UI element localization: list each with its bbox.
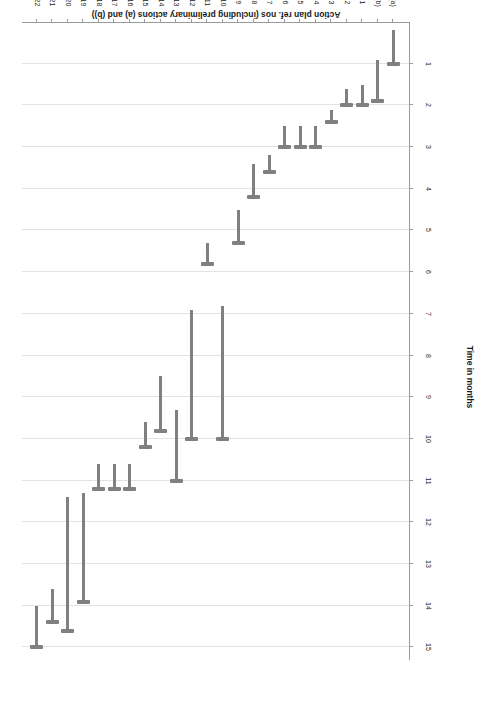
gantt-bar[interactable] — [113, 464, 116, 489]
gantt-bar-cap — [77, 600, 90, 604]
gridline — [22, 63, 409, 64]
value-axis-tick — [409, 521, 413, 522]
gantt-bar-cap — [294, 145, 307, 149]
gantt-bar-cap — [92, 487, 105, 491]
gantt-bar[interactable] — [314, 126, 317, 147]
value-axis-tick-label: 3 — [423, 134, 433, 160]
gantt-bar[interactable] — [128, 464, 131, 489]
gridline — [22, 647, 409, 648]
gantt-bar[interactable] — [97, 464, 100, 489]
value-axis-tick — [409, 605, 413, 606]
gantt-bar-cap — [263, 170, 276, 174]
gantt-bar[interactable] — [144, 422, 147, 447]
gantt-bar-cap — [108, 487, 121, 491]
gantt-bar-cap — [247, 195, 260, 199]
value-axis-tick — [409, 271, 413, 272]
gantt-bar-cap — [185, 437, 198, 441]
value-axis-tick-label: 6 — [423, 259, 433, 285]
gridline — [22, 313, 409, 314]
gantt-bar[interactable] — [252, 164, 255, 197]
gridline — [22, 605, 409, 606]
gantt-bar-cap — [139, 445, 152, 449]
value-axis-tick-label: 11 — [423, 468, 433, 494]
value-axis-tick-label: 5 — [423, 218, 433, 244]
value-axis-tick — [409, 188, 413, 189]
gantt-chart-figure: (a)(b)1234567891011121314151617181920212… — [0, 0, 484, 722]
gridline — [22, 521, 409, 522]
gridline — [22, 480, 409, 481]
gantt-bar-cap — [232, 241, 245, 245]
value-axis-tick-label: 9 — [423, 384, 433, 410]
value-axis-tick — [409, 438, 413, 439]
gantt-bar[interactable] — [221, 306, 224, 439]
chart-rotated-figure: (a)(b)1234567891011121314151617181920212… — [0, 0, 484, 722]
gantt-bar-cap — [30, 646, 43, 650]
gantt-bar-cap — [201, 262, 214, 266]
gridline — [22, 188, 409, 189]
gantt-bar[interactable] — [283, 126, 286, 147]
value-axis-tick — [409, 563, 413, 564]
value-axis-tick — [409, 63, 413, 64]
gridline — [22, 271, 409, 272]
gantt-bar[interactable] — [299, 126, 302, 147]
gantt-bar[interactable] — [82, 493, 85, 601]
gantt-bar-cap — [216, 437, 229, 441]
gantt-bar-cap — [387, 62, 400, 66]
gantt-bar[interactable] — [190, 310, 193, 439]
value-axis-title: Time in months — [465, 307, 475, 447]
gantt-bar-cap — [325, 120, 338, 124]
plot-area: (a)(b)1234567891011121314151617181920212… — [22, 22, 410, 660]
gantt-bar-cap — [170, 479, 183, 483]
gantt-bar[interactable] — [51, 589, 54, 622]
gantt-bar-cap — [154, 429, 167, 433]
gantt-bar-cap — [356, 103, 369, 107]
gantt-bar[interactable] — [35, 606, 38, 648]
gridline — [22, 563, 409, 564]
category-axis-title: Action plan ref. nos (including prelimin… — [22, 10, 410, 20]
value-axis-tick — [409, 230, 413, 231]
value-axis-tick — [409, 313, 413, 314]
gantt-bar-cap — [340, 103, 353, 107]
gantt-bar[interactable] — [206, 243, 209, 264]
value-axis-tick-label: 12 — [423, 509, 433, 535]
value-axis-tick-label: 13 — [423, 551, 433, 577]
gantt-bar-cap — [123, 487, 136, 491]
value-axis-tick — [409, 146, 413, 147]
gantt-bar-cap — [278, 145, 291, 149]
value-axis-tick — [409, 647, 413, 648]
gridline — [22, 396, 409, 397]
gantt-bar[interactable] — [237, 210, 240, 243]
gantt-bar[interactable] — [66, 497, 69, 630]
gantt-bar[interactable] — [392, 30, 395, 63]
gantt-bar[interactable] — [175, 410, 178, 481]
value-axis-tick-label: 14 — [423, 593, 433, 619]
value-axis-tick-label: 7 — [423, 301, 433, 327]
value-axis-tick — [409, 355, 413, 356]
gridline — [22, 146, 409, 147]
gantt-bar[interactable] — [376, 60, 379, 102]
gantt-bar[interactable] — [159, 376, 162, 430]
value-axis-tick — [409, 396, 413, 397]
gantt-bar-cap — [309, 145, 322, 149]
value-axis-tick — [409, 104, 413, 105]
gridline — [22, 355, 409, 356]
gantt-bar[interactable] — [361, 85, 364, 106]
value-axis-tick-label: 1 — [423, 51, 433, 77]
gantt-bar-cap — [46, 620, 59, 624]
value-axis-tick-label: 15 — [423, 635, 433, 661]
gantt-bar-cap — [61, 629, 74, 633]
gantt-bar-cap — [371, 99, 384, 103]
value-axis-tick-label: 2 — [423, 92, 433, 118]
value-axis-tick — [409, 480, 413, 481]
value-axis-tick-label: 8 — [423, 343, 433, 369]
gridline — [22, 230, 409, 231]
value-axis-tick-label: 4 — [423, 176, 433, 202]
value-axis-tick-label: 10 — [423, 426, 433, 452]
